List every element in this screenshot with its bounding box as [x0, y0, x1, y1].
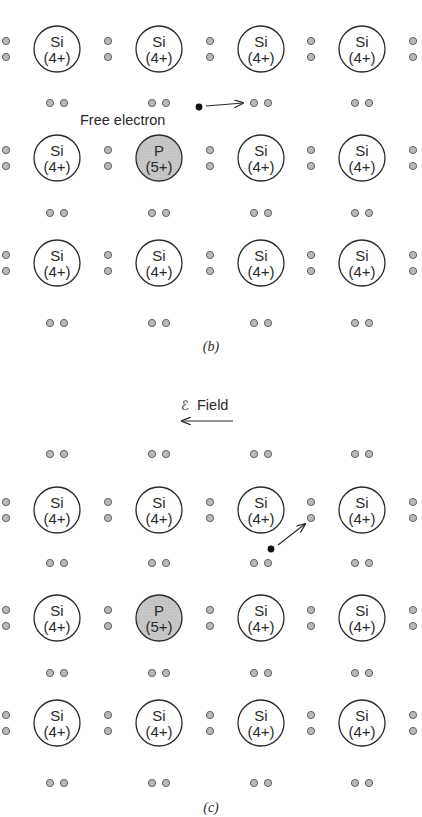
atom-si: Si(4+) [238, 26, 284, 72]
atom-charge: (5+) [145, 618, 172, 635]
atom-si: Si(4+) [34, 487, 80, 533]
atom-symbol: Si [50, 602, 63, 619]
valence-electron [60, 779, 67, 786]
atom-symbol: Si [50, 494, 63, 511]
valence-electron [365, 559, 372, 566]
atom-charge: (4+) [43, 510, 70, 527]
atom-si: Si(4+) [136, 700, 182, 746]
atom-symbol: Si [254, 142, 267, 159]
atom-charge: (4+) [247, 618, 274, 635]
atom-symbol: Si [355, 602, 368, 619]
atom-charge: (4+) [145, 49, 172, 66]
valence-electron [46, 669, 53, 676]
valence-electron [46, 450, 53, 457]
atom-si: Si(4+) [34, 26, 80, 72]
valence-electron [206, 267, 213, 274]
valence-electron [60, 669, 67, 676]
free-electron-arrow-icon [206, 103, 243, 106]
valence-electron [409, 727, 416, 734]
valence-electron [206, 727, 213, 734]
atom-charge: (4+) [348, 723, 375, 740]
atom-charge: (4+) [43, 49, 70, 66]
atom-symbol: Si [254, 494, 267, 511]
valence-electron [206, 711, 213, 718]
valence-electron [206, 498, 213, 505]
atom-charge: (4+) [43, 263, 70, 280]
valence-electron [104, 267, 111, 274]
valence-electron [104, 162, 111, 169]
valence-electron [2, 162, 9, 169]
valence-electron [250, 99, 257, 106]
valence-electron [250, 319, 257, 326]
atom-si: Si(4+) [136, 240, 182, 286]
valence-electron [409, 622, 416, 629]
valence-electron [60, 319, 67, 326]
atom-charge: (4+) [43, 618, 70, 635]
atom-si: Si(4+) [339, 240, 385, 286]
atom-symbol: Si [152, 33, 165, 50]
atom-charge: (4+) [348, 510, 375, 527]
atom-charge: (4+) [145, 510, 172, 527]
atom-charge: (4+) [145, 723, 172, 740]
valence-electron [409, 498, 416, 505]
valence-electron [60, 559, 67, 566]
field-indicator: ℰ Field [181, 397, 233, 421]
donor-atom-p: P(5+) [136, 595, 182, 641]
valence-electron [409, 37, 416, 44]
atom-si: Si(4+) [136, 487, 182, 533]
valence-electron [2, 498, 9, 505]
valence-electron [409, 606, 416, 613]
atom-symbol: Si [152, 707, 165, 724]
valence-electron [206, 622, 213, 629]
valence-electron [2, 727, 9, 734]
atom-symbol: Si [50, 33, 63, 50]
valence-electron [46, 99, 53, 106]
atom-charge: (4+) [145, 263, 172, 280]
valence-electron [409, 53, 416, 60]
valence-electron [2, 606, 9, 613]
valence-electron [365, 669, 372, 676]
valence-electron [162, 669, 169, 676]
valence-electron [365, 779, 372, 786]
valence-electron [250, 779, 257, 786]
atom-symbol: Si [254, 602, 267, 619]
valence-electron [2, 53, 9, 60]
caption-c: (c) [203, 800, 219, 816]
valence-electron [2, 622, 9, 629]
donor-atom-p: P(5+) [136, 135, 182, 181]
valence-electron [264, 319, 271, 326]
valence-electron [365, 319, 372, 326]
atom-symbol: Si [50, 247, 63, 264]
atom-symbol: Si [355, 707, 368, 724]
atom-symbol: Si [254, 247, 267, 264]
atom-symbol: P [154, 602, 164, 619]
atom-si: Si(4+) [339, 135, 385, 181]
valence-electron [307, 146, 314, 153]
valence-electron [206, 514, 213, 521]
valence-electron [104, 727, 111, 734]
valence-electron [46, 319, 53, 326]
valence-electron [409, 514, 416, 521]
valence-electron [250, 209, 257, 216]
valence-electron [60, 209, 67, 216]
field-symbol: ℰ [181, 398, 189, 413]
valence-electron [148, 99, 155, 106]
valence-electron [409, 146, 416, 153]
atom-symbol: Si [355, 142, 368, 159]
atom-charge: (4+) [348, 618, 375, 635]
atom-charge: (4+) [247, 723, 274, 740]
valence-electron [104, 711, 111, 718]
moving-electron-dot [268, 546, 275, 553]
atom-si: Si(4+) [238, 700, 284, 746]
valence-electron [307, 514, 314, 521]
valence-electron [264, 779, 271, 786]
valence-electron [307, 727, 314, 734]
valence-electron [104, 514, 111, 521]
valence-electron [307, 53, 314, 60]
valence-electron [307, 498, 314, 505]
valence-electron [60, 450, 67, 457]
valence-electron [162, 779, 169, 786]
valence-electron [162, 450, 169, 457]
valence-electron [2, 146, 9, 153]
valence-electron [351, 450, 358, 457]
